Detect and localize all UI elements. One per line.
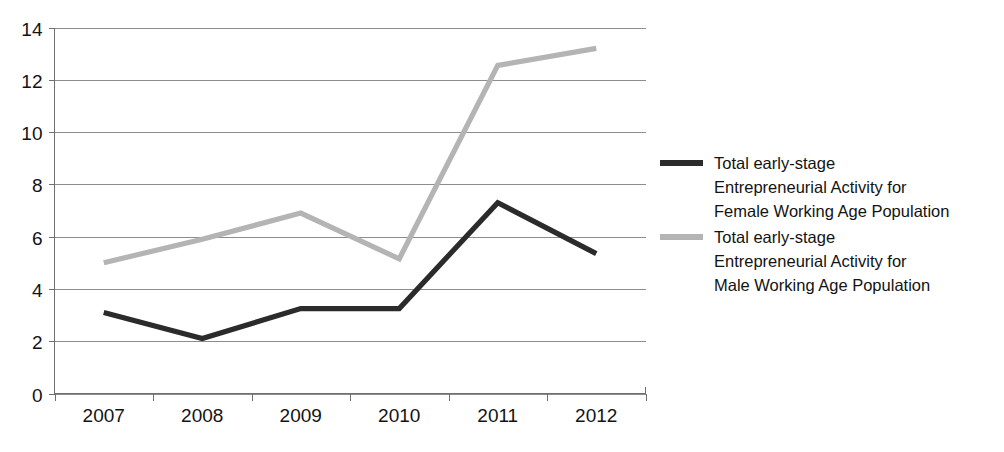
x-tick-label-2007: 2007 (83, 405, 125, 426)
y-tick-marks-group (49, 29, 55, 395)
y-tick-label-2: 2 (32, 332, 43, 353)
legend-item-female[interactable]: Total early-stageEntrepreneurial Activit… (714, 154, 949, 220)
legend-label-line-3: Female Working Age Population (714, 202, 949, 220)
legend-label-line-3: Male Working Age Population (714, 276, 930, 294)
x-tick-label-2008: 2008 (181, 405, 223, 426)
y-tick-label-12: 12 (21, 71, 42, 92)
y-tick-label-10: 10 (21, 123, 42, 144)
x-tick-labels-group: 200720082009201020112012 (83, 405, 618, 426)
y-tick-labels-group: 02468101214 (21, 19, 43, 406)
y-tick-label-8: 8 (32, 175, 43, 196)
x-tick-label-2010: 2010 (378, 405, 420, 426)
chart-legend: Total early-stageEntrepreneurial Activit… (660, 154, 949, 294)
series-lines-group (104, 48, 597, 338)
line-chart: 02468101214 200720082009201020112012 Tot… (0, 0, 1004, 452)
y-tick-label-0: 0 (32, 385, 43, 406)
y-tick-label-6: 6 (32, 228, 43, 249)
legend-label-line-1: Total early-stage (714, 154, 835, 172)
x-tick-label-2009: 2009 (280, 405, 322, 426)
gridlines-group (55, 29, 646, 395)
x-tick-label-2012: 2012 (575, 405, 617, 426)
y-tick-label-4: 4 (32, 280, 43, 301)
legend-item-male[interactable]: Total early-stageEntrepreneurial Activit… (714, 228, 930, 294)
y-tick-label-14: 14 (21, 19, 43, 40)
series-line-female (104, 203, 597, 339)
chart-canvas: 02468101214 200720082009201020112012 Tot… (0, 0, 1004, 452)
legend-label-line-2: Entrepreneurial Activity for (714, 252, 907, 270)
x-tick-label-2011: 2011 (477, 405, 518, 426)
legend-label-line-2: Entrepreneurial Activity for (714, 178, 907, 196)
legend-label-line-1: Total early-stage (714, 228, 835, 246)
